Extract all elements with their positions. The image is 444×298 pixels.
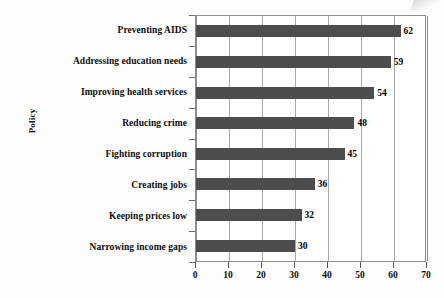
x-axis-tick [393, 262, 394, 268]
x-axis-tick-label: 40 [322, 270, 332, 280]
bar [196, 148, 345, 160]
category-label: Creating jobs [131, 180, 187, 190]
bar-value-label: 32 [302, 210, 315, 220]
category-label: Improving health services [81, 87, 187, 97]
category-label-cell: Fighting corruption [0, 139, 192, 170]
category-label-cell: Keeping prices low [0, 200, 192, 231]
scan-artifact [410, 0, 440, 12]
bar-value-label: 30 [295, 241, 308, 251]
bar [196, 25, 401, 37]
bars-layer: 6259544845363230 [196, 16, 425, 261]
x-axis-tick-label: 20 [256, 270, 266, 280]
bar-row: 32 [196, 200, 425, 231]
x-axis-tick [327, 262, 328, 268]
bar [196, 209, 302, 221]
bar [196, 178, 315, 190]
category-label-cell: Preventing AIDS [0, 15, 192, 46]
bar-row: 62 [196, 16, 425, 47]
x-axis-tick [360, 262, 361, 268]
bar-chart-figure: Policy Preventing AIDSAddressing educati… [0, 0, 444, 298]
x-axis-tick-label: 70 [421, 270, 431, 280]
x-axis-tick [426, 262, 427, 268]
bar [196, 117, 354, 129]
x-axis-tick-labels: 010203040506070 [195, 270, 426, 286]
category-label: Addressing education needs [73, 56, 187, 66]
category-label-cell: Improving health services [0, 77, 192, 108]
bar-value-label: 54 [374, 88, 387, 98]
bar-value-label: 59 [391, 57, 404, 67]
bar-value-label: 62 [401, 26, 414, 36]
x-axis-tick-label: 30 [289, 270, 299, 280]
bar-value-label: 36 [315, 179, 328, 189]
bar [196, 87, 374, 99]
bar-row: 54 [196, 77, 425, 108]
category-label: Fighting corruption [106, 149, 187, 159]
category-axis-labels: Preventing AIDSAddressing education need… [0, 15, 192, 262]
category-label: Preventing AIDS [118, 25, 187, 35]
bar-row: 48 [196, 108, 425, 139]
x-axis-tick-label: 50 [355, 270, 365, 280]
bar-row: 59 [196, 47, 425, 78]
category-label: Reducing crime [122, 118, 187, 128]
x-axis-tick-label: 10 [223, 270, 233, 280]
x-axis-ticks [195, 262, 426, 268]
bar [196, 56, 391, 68]
plot-area: 6259544845363230 [195, 15, 426, 262]
bar-row: 36 [196, 169, 425, 200]
gridline [427, 16, 428, 261]
x-axis-tick-label: 0 [193, 270, 198, 280]
bar [196, 240, 295, 252]
x-axis-tick [195, 262, 196, 268]
category-label-cell: Narrowing income gaps [0, 231, 192, 262]
category-label: Narrowing income gaps [90, 242, 187, 252]
category-label: Keeping prices low [109, 211, 187, 221]
x-axis-tick-label: 60 [388, 270, 398, 280]
bar-row: 45 [196, 139, 425, 170]
bar-value-label: 45 [345, 149, 358, 159]
x-axis-tick [294, 262, 295, 268]
x-axis-tick [228, 262, 229, 268]
category-label-cell: Addressing education needs [0, 46, 192, 77]
category-label-cell: Reducing crime [0, 108, 192, 139]
bar-row: 30 [196, 230, 425, 261]
bar-value-label: 48 [354, 118, 367, 128]
category-label-cell: Creating jobs [0, 169, 192, 200]
x-axis-tick [261, 262, 262, 268]
